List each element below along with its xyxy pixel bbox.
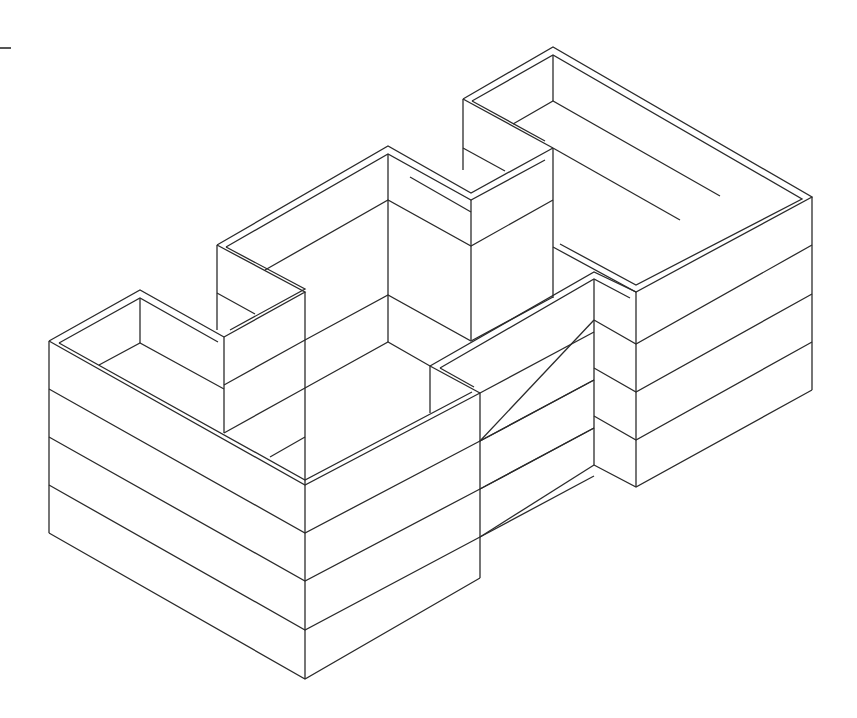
drawing-background xyxy=(0,0,857,718)
isometric-building-drawing xyxy=(0,0,857,718)
